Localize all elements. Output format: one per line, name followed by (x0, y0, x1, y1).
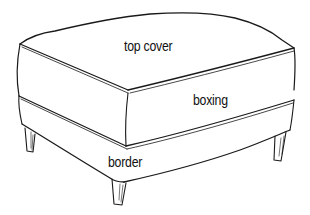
leg-front-hatch (119, 184, 123, 202)
label-top-cover: top cover (124, 38, 172, 53)
border-left-edge (19, 96, 22, 124)
leg-back-left-hatch (31, 132, 33, 150)
top-cover-piping-left-inner (22, 47, 128, 93)
label-boxing: boxing (193, 92, 228, 107)
boxing-seam-right-inner (127, 103, 293, 149)
boxing-front-corner (126, 93, 128, 146)
top-cover-piping-left (20, 44, 128, 90)
ottoman-diagram: top cover boxing border (0, 0, 310, 215)
boxing-right-edge (294, 48, 295, 90)
top-cover-piping-right (128, 48, 294, 90)
boxing-left-edge (17, 44, 20, 96)
leg-front (112, 179, 126, 205)
boxing-seam-left-inner (21, 99, 127, 149)
border-bottom-right (124, 130, 290, 182)
border-right-edge (290, 100, 294, 130)
label-border: border (108, 154, 142, 169)
ottoman-drawing (0, 0, 310, 215)
top-cover-piping-right-inner (130, 51, 294, 93)
